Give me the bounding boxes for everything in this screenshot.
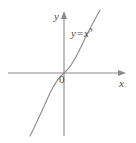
y-axis-arrow-icon <box>61 11 67 19</box>
equation-exponent: 3 <box>89 26 93 34</box>
curve-equation-label: y=x3 <box>71 27 93 39</box>
x-axis-label: x <box>119 78 124 89</box>
equation-equals-sign: = <box>76 27 84 39</box>
y-axis-label: y <box>54 11 59 22</box>
function-graph-figure: y x 0 y=x3 <box>0 0 136 143</box>
origin-label: 0 <box>59 74 65 85</box>
plot-canvas <box>0 0 136 143</box>
x-axis-arrow-icon <box>118 70 126 76</box>
